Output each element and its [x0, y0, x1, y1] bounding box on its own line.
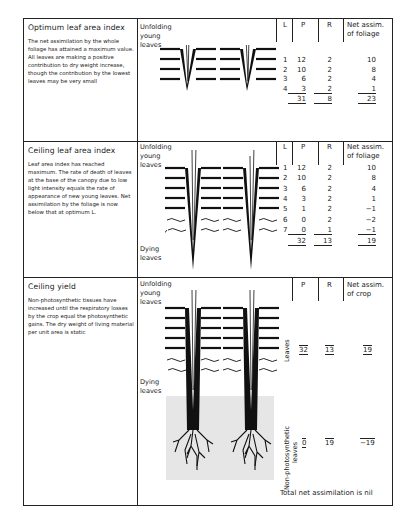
cell-L: 3 — [283, 185, 287, 193]
total-R: 13 — [314, 237, 332, 246]
leaves-net: 19 — [363, 345, 372, 355]
nonphoto-net: −19 — [360, 438, 375, 447]
cell-net: 1 — [358, 85, 376, 94]
panel-title: Ceiling leaf area index — [28, 146, 134, 155]
cell-net: 8 — [358, 66, 376, 74]
cell-net: −1 — [358, 226, 376, 235]
cell-P: 10 — [288, 174, 306, 182]
cell-L: 3 — [283, 75, 287, 83]
cell-L: 1 — [283, 56, 287, 64]
col-header-R: R — [327, 21, 332, 30]
col-header-net: Net assim. of foliage — [347, 21, 391, 39]
label-nonphoto-leaves: leaves — [291, 442, 299, 463]
roots — [173, 430, 271, 470]
panel-text: Leaf area index has reached maximum. The… — [28, 160, 134, 216]
header-separator — [318, 141, 319, 165]
cell-R: 2 — [314, 205, 332, 213]
plant-illustration-optimum — [160, 45, 280, 95]
header-separator — [343, 141, 344, 165]
col-header-net: Net assim. of crop — [347, 281, 391, 299]
col-header-L: L — [283, 21, 287, 30]
cell-P: 0 — [288, 216, 306, 224]
cell-P: 6 — [288, 75, 306, 83]
footer-total-nil: Total net assimilation is nil — [280, 489, 373, 498]
total-net: 23 — [358, 95, 376, 104]
total-net: 19 — [358, 237, 376, 246]
cell-net: −2 — [358, 216, 376, 224]
cell-L: 4 — [283, 85, 287, 93]
header-separator — [292, 18, 293, 42]
cell-R: 2 — [314, 75, 332, 83]
cell-P: 12 — [288, 164, 306, 172]
plant-illustration-ceiling-yield — [165, 290, 280, 485]
cell-net: 10 — [358, 56, 376, 64]
cell-L: 1 — [283, 164, 287, 172]
header-separator — [318, 18, 319, 42]
col-header-P: P — [301, 143, 305, 152]
panel-text: The net assimilation by the whole foliag… — [28, 37, 134, 85]
header-separator — [276, 18, 277, 42]
cell-L: 5 — [283, 205, 287, 213]
col-header-net: Net assim. of foliage — [347, 143, 391, 161]
cell-R: 2 — [314, 85, 332, 94]
col-header-R: R — [327, 143, 332, 152]
total-P: 31 — [288, 95, 306, 104]
cell-L: 2 — [283, 66, 287, 74]
cell-L: 4 — [283, 195, 287, 203]
cell-R: 1 — [314, 226, 332, 235]
cell-R: 2 — [314, 66, 332, 74]
leaves-P: 32 — [299, 345, 308, 355]
cell-P: 6 — [288, 185, 306, 193]
cell-R: 2 — [314, 174, 332, 182]
cell-P: 3 — [288, 85, 306, 94]
cell-P: 10 — [288, 66, 306, 74]
label-leaves: Leaves — [283, 339, 291, 362]
nonphoto-P: 0 — [302, 438, 306, 448]
cell-R: 2 — [314, 195, 332, 203]
cell-net: 10 — [358, 164, 376, 172]
cell-net: −1 — [358, 205, 376, 213]
cell-L: 7 — [283, 226, 287, 234]
row-divider-1 — [24, 141, 392, 142]
cell-P: 3 — [288, 195, 306, 203]
cell-R: 2 — [314, 56, 332, 64]
cell-P: 12 — [288, 56, 306, 64]
label-non-photosynthetic: Non-photosynthetic — [283, 400, 291, 490]
row-divider-2 — [24, 277, 392, 278]
cell-net: 1 — [358, 195, 376, 203]
header-separator — [276, 141, 277, 165]
cell-net: 8 — [358, 174, 376, 182]
cell-net: 4 — [358, 185, 376, 193]
panel-ceiling-yield-description: Ceiling yield Non-photosynthetic tissues… — [28, 282, 134, 336]
cell-L: 2 — [283, 174, 287, 182]
panel-title: Optimum leaf area index — [28, 23, 134, 32]
cell-R: 2 — [314, 164, 332, 172]
panel-title: Ceiling yield — [28, 282, 134, 291]
plant-illustration-ceiling-lai — [165, 150, 280, 275]
cell-P: 0 — [288, 226, 306, 235]
panel-ceiling-lai-description: Ceiling leaf area index Leaf area index … — [28, 146, 134, 216]
leaves-R: 13 — [325, 345, 334, 355]
header-separator — [318, 277, 319, 301]
cell-R: 2 — [314, 216, 332, 224]
col-header-R: R — [327, 281, 332, 290]
cell-P: 1 — [288, 205, 306, 213]
total-P: 32 — [288, 237, 306, 246]
cell-net: 4 — [358, 75, 376, 83]
header-separator — [343, 277, 344, 301]
col-header-P: P — [301, 281, 305, 290]
cell-L: 6 — [283, 216, 287, 224]
nonphoto-R: 19 — [325, 438, 334, 447]
header-separator — [343, 18, 344, 42]
col-header-L: L — [283, 143, 287, 152]
panel-text: Non-photosynthetic tissues have increase… — [28, 296, 134, 336]
header-separator — [292, 141, 293, 165]
header-separator — [292, 277, 293, 301]
total-R: 8 — [314, 95, 332, 104]
cell-R: 2 — [314, 185, 332, 193]
col-header-P: P — [301, 21, 305, 30]
column-divider — [137, 19, 138, 505]
panel-optimum-description: Optimum leaf area index The net assimila… — [28, 23, 134, 85]
